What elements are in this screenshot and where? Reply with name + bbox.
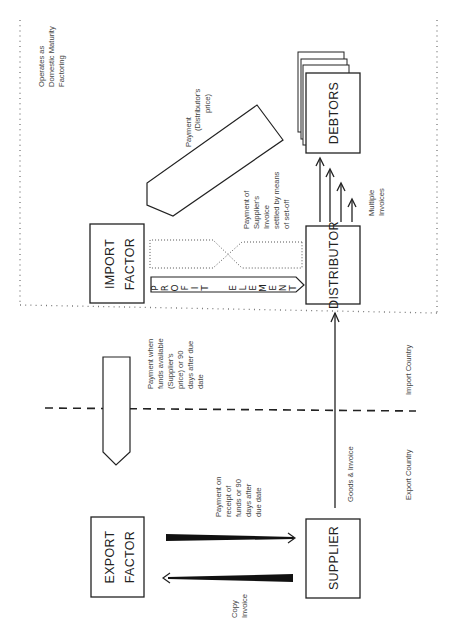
profit-letter: L (238, 285, 248, 290)
payment-distributor-arrow (147, 105, 283, 216)
setoff-label: Payment of Supplier's Invoice settled by… (242, 171, 291, 229)
svg-text:(Supplier's: (Supplier's (166, 353, 175, 389)
import-country-label: Import Country (404, 345, 413, 395)
svg-text:Operates as: Operates as (37, 45, 46, 87)
svg-text:Payment: Payment (184, 116, 193, 147)
profit-letter: E (228, 285, 238, 291)
payment-when-funds-label: Payment when funds available (Supplier's… (146, 338, 205, 389)
svg-text:Invoice: Invoice (262, 205, 271, 229)
svg-text:Invoice: Invoice (240, 594, 249, 618)
copy-invoice-arrow (163, 573, 293, 583)
svg-text:Payment when: Payment when (146, 339, 155, 389)
svg-text:price) or 90: price) or 90 (176, 351, 185, 389)
svg-text:settled by means: settled by means (272, 171, 281, 229)
svg-text:funds available: funds available (156, 338, 165, 389)
profit-letter: R (160, 285, 170, 291)
svg-text:funds or 90: funds or 90 (234, 479, 243, 517)
payment-funds-available-arrow (103, 357, 130, 465)
svg-text:receipt of: receipt of (224, 485, 233, 517)
svg-text:of set-off: of set-off (282, 199, 291, 229)
profit-letter: F (180, 285, 190, 290)
export-factor-label-1: EXPORT (103, 530, 117, 583)
international-factoring-diagram: DEBTORS DISTRIBUTOR IMPORT FACTOR EXPORT… (0, 0, 453, 642)
profit-letter: O (170, 284, 180, 291)
country-border-line (45, 408, 416, 411)
svg-text:price): price) (203, 94, 212, 113)
copy-invoice-label: Copy Invoice (230, 594, 249, 618)
svg-text:Domestic Maturity: Domestic Maturity (47, 26, 56, 87)
svg-text:days after due: days after due (186, 341, 195, 389)
multiple-invoice-arrows (316, 158, 356, 222)
profit-letter: N (278, 285, 288, 292)
profit-letter: T (288, 285, 298, 292)
profit-letter: I (190, 287, 200, 290)
svg-text:Payment on: Payment on (214, 476, 223, 517)
domestic-factoring-note: Operates as Domestic Maturity Factoring (37, 26, 66, 87)
debtors-label: DEBTORS (327, 82, 341, 144)
svg-text:date: date (196, 374, 205, 389)
export-country-label: Export Country (404, 449, 413, 500)
svg-text:Supplier's: Supplier's (252, 196, 261, 229)
svg-text:Copy: Copy (230, 600, 239, 618)
profit-letter: P (150, 285, 160, 291)
supplier-label: SUPPLIER (327, 526, 341, 590)
svg-text:Invoices: Invoices (377, 188, 386, 216)
svg-text:(Distributor's: (Distributor's (193, 88, 202, 131)
goods-invoice-label: Goods & Invoice (346, 446, 355, 502)
payment-on-receipt-label: Payment on receipt of funds or 90 days a… (214, 476, 263, 517)
import-factor-label-2: FACTOR (123, 238, 137, 290)
svg-text:Factoring: Factoring (57, 55, 66, 87)
svg-text:due date: due date (254, 487, 263, 517)
setoff-cross (150, 240, 302, 268)
export-factor-label-2: FACTOR (123, 531, 137, 583)
svg-text:Payment of: Payment of (242, 190, 251, 229)
profit-letter: T (200, 285, 210, 292)
payment-on-receipt-arrow (166, 533, 295, 543)
distributor-label: DISTRIBUTOR (327, 221, 341, 309)
payment-distributor-label: Payment (Distributor's price) (184, 88, 212, 147)
import-factor-label-1: IMPORT (103, 239, 117, 289)
profit-letter: E (268, 285, 278, 291)
profit-letter: E (248, 285, 258, 291)
svg-text:days after: days after (244, 483, 253, 517)
multiple-invoices-label: Multiple Invoices (367, 188, 386, 216)
profit-letter: M (258, 284, 268, 292)
svg-text:Multiple: Multiple (367, 190, 376, 216)
